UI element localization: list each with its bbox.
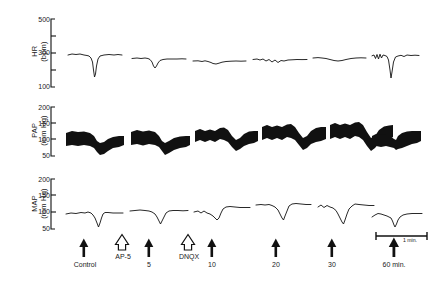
hr-trace-10 xyxy=(193,61,246,64)
pap-trace-control xyxy=(66,131,124,155)
map-traces xyxy=(66,204,422,228)
arrow-dnqx xyxy=(182,235,195,251)
arrow-5 xyxy=(144,239,153,258)
x-label-10: 10 xyxy=(197,261,227,268)
hr-trace-control xyxy=(68,54,122,77)
arrow-20 xyxy=(271,239,280,258)
hr-trace-5 xyxy=(132,58,186,68)
map-trace-5 xyxy=(130,210,188,224)
map-axis xyxy=(51,179,56,229)
pap-traces xyxy=(66,122,421,155)
hr-trace-60 xyxy=(372,54,419,78)
figure-container: HR (bpm) 500 300 100 PAP (mm Hg) 200 150… xyxy=(0,0,441,282)
x-label-20: 20 xyxy=(261,261,291,268)
pap-axis xyxy=(51,107,56,156)
map-trace-control xyxy=(66,212,123,227)
drug-label-ap5: AP-5 xyxy=(105,253,141,260)
x-label-60: 60 min. xyxy=(372,261,416,268)
arrow-ap5 xyxy=(116,235,129,251)
hr-trace-20 xyxy=(253,59,307,63)
pap-trace-10 xyxy=(195,128,258,152)
map-trace-60 xyxy=(372,214,422,228)
hr-trace-30 xyxy=(313,58,366,61)
x-label-5: 5 xyxy=(134,261,164,268)
scale-bar-label: 1 min. xyxy=(392,237,428,243)
x-label-30: 30 xyxy=(317,261,347,268)
map-trace-20 xyxy=(256,204,311,221)
map-trace-30 xyxy=(318,204,374,224)
drug-label-dnqx: DNQX xyxy=(169,253,209,260)
drug-arrows xyxy=(116,235,195,251)
arrow-30 xyxy=(327,239,336,258)
x-label-control: Control xyxy=(64,261,106,268)
pap-trace-20 xyxy=(262,124,326,150)
hr-traces xyxy=(68,54,419,78)
pap-trace-5 xyxy=(131,130,190,155)
arrow-control xyxy=(79,239,88,258)
map-trace-10 xyxy=(194,207,250,221)
hr-axis xyxy=(51,19,56,87)
trace-canvas xyxy=(0,0,441,282)
